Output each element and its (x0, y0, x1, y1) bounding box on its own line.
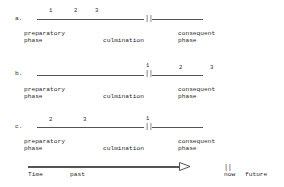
now-boundary: || (224, 164, 231, 171)
consequent-phase-label: phase (178, 146, 197, 152)
arrow-head-icon (179, 162, 191, 171)
past-label: past (70, 172, 85, 178)
consequent-line (152, 75, 203, 76)
preparatory-phase-label: phase (24, 94, 43, 100)
row-label: a. (15, 16, 22, 22)
marker-3: 3 (210, 65, 213, 71)
consequent-line (152, 19, 203, 20)
marker-3: 3 (83, 117, 86, 123)
culmination-label: culmination (103, 146, 144, 152)
preparatory-phase-label: phase (24, 146, 43, 152)
time-arrow-shaft (28, 166, 180, 168)
culmination-label: culmination (103, 94, 144, 100)
preparatory-phase-label: phase (24, 38, 43, 44)
consequent-phase-label: phase (178, 38, 197, 44)
culmination-label: culmination (103, 38, 144, 44)
row-label: b. (15, 71, 22, 77)
marker-2: 2 (49, 117, 52, 123)
marker-1: 1 (49, 8, 52, 14)
marker-3: 3 (95, 8, 98, 14)
future-label: future (245, 172, 267, 178)
consequent-line (152, 127, 203, 128)
now-label: now (224, 172, 235, 178)
preparatory-line (37, 19, 144, 20)
consequent-phase-label: phase (178, 94, 197, 100)
preparatory-line (37, 75, 144, 76)
marker-2: 2 (74, 8, 77, 14)
preparatory-line (37, 127, 144, 128)
marker-2: 2 (179, 65, 182, 71)
row-label: c. (15, 124, 22, 130)
time-label: Time (28, 172, 43, 178)
